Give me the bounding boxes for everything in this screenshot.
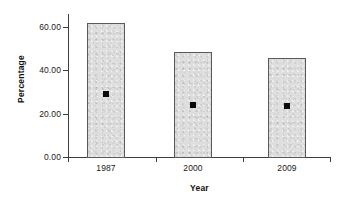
y-axis-line xyxy=(68,14,69,158)
y-tick-40 xyxy=(63,70,68,71)
y-tick-label-60: 60.00 xyxy=(39,23,61,32)
marker-2009 xyxy=(284,103,290,109)
y-tick-label-40: 40.00 xyxy=(39,66,61,75)
marker-1987 xyxy=(103,91,109,97)
y-tick-20 xyxy=(63,114,68,115)
x-tick-start xyxy=(68,157,69,162)
x-tick-2 xyxy=(243,157,244,162)
y-axis-title: Percentage xyxy=(16,34,26,124)
x-tick-1 xyxy=(156,157,157,162)
marker-2000 xyxy=(190,102,196,108)
y-tick-label-20: 20.00 xyxy=(39,110,61,119)
x-tick-end xyxy=(330,157,331,162)
y-tick-60 xyxy=(63,27,68,28)
x-tick-label-1987: 1987 xyxy=(76,164,136,173)
x-tick-label-2009: 2009 xyxy=(257,164,317,173)
x-axis-title: Year xyxy=(68,183,331,193)
bar-chart: 60.00 40.00 20.00 0.00 Percentage 1987 2… xyxy=(0,0,350,208)
y-tick-label-0: 0.00 xyxy=(44,153,61,162)
x-tick-label-2000: 2000 xyxy=(163,164,223,173)
